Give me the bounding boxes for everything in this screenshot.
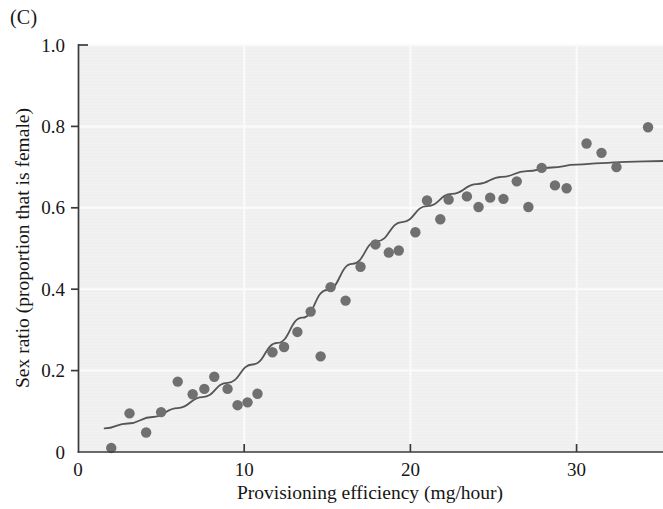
data-point	[473, 202, 483, 212]
y-axis-title: Sex ratio (proportion that is female)	[12, 108, 34, 388]
x-tick-label: 30	[567, 459, 586, 480]
data-point	[498, 194, 508, 204]
data-point	[443, 194, 453, 204]
x-tick-label: 0	[73, 459, 83, 480]
data-point	[199, 384, 209, 394]
y-tick-label: 0	[56, 442, 66, 463]
y-tick-label: 1.0	[41, 35, 65, 56]
data-point	[315, 351, 325, 361]
data-point	[435, 214, 445, 224]
y-tick-label: 0.8	[41, 116, 65, 137]
data-point	[355, 262, 365, 272]
data-point	[242, 397, 252, 407]
data-point	[232, 400, 242, 410]
data-point	[141, 427, 151, 437]
data-point	[581, 138, 591, 148]
figure-panel-c: (C) 00.20.40.60.81.00102030 Provisioning…	[0, 0, 663, 509]
scatter-plot: 00.20.40.60.81.00102030 Provisioning eff…	[0, 0, 663, 509]
y-tick-label: 0.6	[41, 197, 65, 218]
data-point	[292, 327, 302, 337]
data-point	[410, 227, 420, 237]
data-point	[512, 176, 522, 186]
data-point	[550, 180, 560, 190]
data-point	[279, 342, 289, 352]
data-point	[267, 347, 277, 357]
data-point	[561, 183, 571, 193]
x-tick-label: 20	[401, 459, 420, 480]
data-point	[422, 195, 432, 205]
data-point	[305, 306, 315, 316]
data-point	[523, 202, 533, 212]
y-tick-label: 0.2	[41, 360, 65, 381]
data-point	[370, 239, 380, 249]
x-tick-label: 10	[235, 459, 254, 480]
data-point	[187, 389, 197, 399]
data-point	[252, 389, 262, 399]
data-point	[340, 295, 350, 305]
data-point	[536, 163, 546, 173]
data-point	[124, 408, 134, 418]
data-point	[596, 148, 606, 158]
data-point	[156, 407, 166, 417]
plot-background	[78, 45, 663, 452]
y-tick-label: 0.4	[41, 279, 65, 300]
data-point	[384, 247, 394, 257]
data-point	[485, 192, 495, 202]
data-point	[173, 376, 183, 386]
data-point	[643, 122, 653, 132]
data-point	[394, 245, 404, 255]
data-point	[209, 372, 219, 382]
data-point	[325, 282, 335, 292]
data-point	[462, 191, 472, 201]
data-point	[222, 384, 232, 394]
data-point	[611, 162, 621, 172]
x-axis-title: Provisioning efficiency (mg/hour)	[237, 482, 503, 504]
